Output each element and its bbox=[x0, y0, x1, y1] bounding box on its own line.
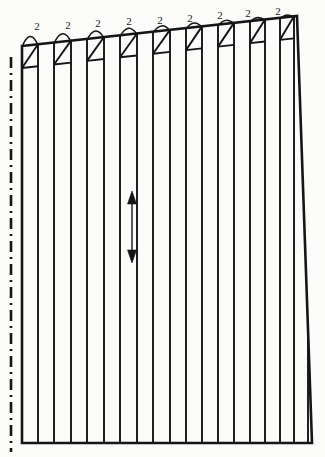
grainline-arrowhead-bottom bbox=[128, 250, 137, 263]
pleat-fold-lines-group bbox=[38, 16, 308, 443]
panel-outline-group bbox=[22, 16, 312, 443]
grainline-arrowhead-top bbox=[128, 191, 137, 204]
pleat-box-diagonal-4 bbox=[120, 33, 137, 57]
pleat-box-bottom-8 bbox=[250, 41, 265, 43]
pleat-box-bottom-3 bbox=[87, 59, 104, 61]
pleat-box-bottom-7 bbox=[218, 45, 234, 47]
pleat-quantity-label-3: 2 bbox=[95, 18, 101, 29]
pattern-svg bbox=[0, 0, 325, 457]
pleat-box-bottom-9 bbox=[280, 38, 294, 40]
pleat-box-bottom-1 bbox=[22, 66, 38, 68]
pleat-box-diagonal-3 bbox=[87, 37, 104, 61]
pleat-box-bottom-2 bbox=[54, 63, 71, 65]
pleat-box-diagonal-6 bbox=[186, 26, 202, 50]
pleat-box-diagonal-7 bbox=[218, 23, 234, 47]
pleat-quantity-label-9: 2 bbox=[275, 6, 281, 17]
pleat-box-diagonal-2 bbox=[54, 41, 71, 65]
pleat-quantity-label-1: 2 bbox=[34, 21, 40, 32]
pleat-quantity-label-2: 2 bbox=[65, 20, 71, 31]
panel-outline-path bbox=[22, 16, 312, 443]
pleat-box-diagonal-9 bbox=[280, 16, 294, 40]
pleat-quantity-label-8: 2 bbox=[245, 8, 251, 19]
pleat-box-diagonal-8 bbox=[250, 19, 265, 43]
pleat-quantity-label-6: 2 bbox=[187, 13, 193, 24]
pleat-box-bottom-5 bbox=[153, 52, 170, 54]
pattern-drawing-canvas: 222222222 bbox=[0, 0, 325, 457]
pleat-quantity-label-5: 2 bbox=[157, 15, 163, 26]
pleat-box-bottom-4 bbox=[120, 55, 137, 57]
pleat-quantity-label-4: 2 bbox=[126, 16, 132, 27]
pleat-box-diagonal-1 bbox=[22, 44, 38, 68]
pleat-box-diagonal-5 bbox=[153, 30, 170, 54]
grainline-arrow-group bbox=[128, 191, 137, 263]
pleat-quantity-label-7: 2 bbox=[217, 10, 223, 21]
pleat-box-bottom-6 bbox=[186, 48, 202, 50]
